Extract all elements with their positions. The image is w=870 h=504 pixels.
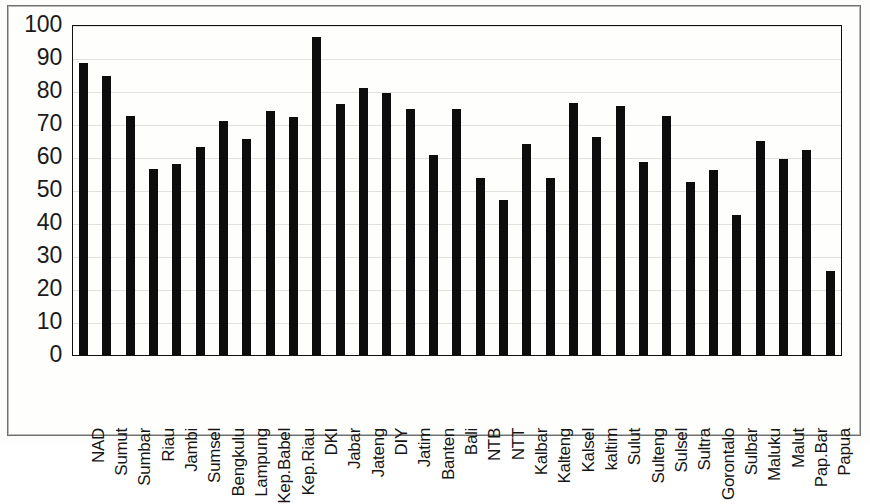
bar-Lampung (242, 139, 251, 355)
x-axis-label-text: DIY (393, 428, 410, 455)
y-axis-tick-30: 30 (14, 244, 62, 267)
bar-Kep.Riau (289, 117, 298, 355)
x-axis-label-text: Kep.Babel (276, 428, 293, 504)
bar-column (305, 25, 328, 355)
x-axis-label-text: kaltim (603, 428, 620, 471)
bar-DIY (382, 93, 391, 355)
x-axis-label-text: DKI (323, 428, 340, 455)
bar-column (632, 25, 655, 355)
bar-Sulbar (732, 215, 741, 355)
bar-Sumbar (126, 116, 135, 355)
bar-Papua (826, 271, 835, 355)
bar-column (539, 25, 562, 355)
x-axis-label-text: Sumbar (136, 428, 153, 486)
bar-Jateng (359, 88, 368, 355)
bar-column (422, 25, 445, 355)
bar-Bengkulu (219, 121, 228, 355)
bar-column (492, 25, 515, 355)
bar-column (819, 25, 842, 355)
x-axis-label-text: Bali (463, 428, 480, 455)
bar-column (795, 25, 818, 355)
bar-Jatim (406, 109, 415, 355)
y-axis: 1009080706050403020100 (14, 12, 66, 356)
bar-Jambi (172, 164, 181, 355)
y-axis-tick-20: 20 (14, 277, 62, 300)
bar-column (72, 25, 95, 355)
x-axis-labels: NADSumutSumbarRiauJambiSumselBengkuluLam… (72, 358, 842, 430)
bar-Bali (452, 109, 461, 355)
bar-column (515, 25, 538, 355)
x-axis-label-text: Sumsel (206, 428, 223, 483)
bar-Sumsel (196, 147, 205, 355)
bar-column (329, 25, 352, 355)
bar-column (469, 25, 492, 355)
bar-Sulut (616, 106, 625, 355)
bar-column (585, 25, 608, 355)
x-axis-label-text: Jatim (416, 428, 433, 467)
bar-Sumut (102, 76, 111, 355)
bar-column (165, 25, 188, 355)
bar-column (235, 25, 258, 355)
bar-Kalteng (546, 178, 555, 355)
x-axis-label-text: Riau (160, 428, 177, 462)
x-axis-label-text: Banten (440, 428, 457, 480)
bar-NTT (499, 200, 508, 355)
bar-column (749, 25, 772, 355)
x-axis-label-text: Sulteng (650, 428, 667, 484)
x-axis-label-text: Jambi (183, 428, 200, 472)
y-axis-tick-40: 40 (14, 211, 62, 234)
bar-column (189, 25, 212, 355)
x-axis-label-text: Sulut (626, 428, 643, 465)
x-axis-label-text: Sumut (113, 428, 130, 476)
bar-Banten (429, 155, 438, 355)
bar-column (725, 25, 748, 355)
bar-Sulteng (639, 162, 648, 355)
y-axis-tick-80: 80 (14, 79, 62, 102)
x-axis-label-text: Papua (836, 428, 853, 476)
bar-Pap.Bar (802, 150, 811, 355)
y-axis-tick-0: 0 (14, 343, 62, 366)
bar-Jabar (336, 104, 345, 355)
y-axis-tick-90: 90 (14, 46, 62, 69)
bar-Malut (779, 159, 788, 355)
x-axis-label-text: Bengkulu (230, 428, 247, 497)
bar-Sulsel (662, 116, 671, 355)
x-axis-label-text: NTB (486, 428, 503, 461)
y-axis-tick-100: 100 (14, 13, 62, 36)
bar-chart: 1009080706050403020100 NADSumutSumbarRia… (14, 12, 856, 431)
x-axis-label-text: Gorontalo (720, 428, 737, 500)
bar-column (562, 25, 585, 355)
bar-Sultra (686, 182, 695, 355)
bar-column (399, 25, 422, 355)
x-axis-label-text: Maluku (766, 428, 783, 481)
bar-Kalsel (569, 103, 578, 355)
x-axis-label-text: Lampung (253, 428, 270, 497)
bar-Kalbar (522, 144, 531, 355)
bar-column (445, 25, 468, 355)
x-axis-label-text: Jabar (346, 428, 363, 469)
bar-column (119, 25, 142, 355)
bar-DKI (312, 37, 321, 355)
bar-column (282, 25, 305, 355)
bar-column (375, 25, 398, 355)
bar-column (655, 25, 678, 355)
x-axis-label-text: Sulsel (673, 428, 690, 473)
x-axis-label-text: NAD (90, 428, 107, 463)
bar-Kep.Babel (266, 111, 275, 355)
y-axis-tick-60: 60 (14, 145, 62, 168)
x-axis-label-text: Sultra (696, 428, 713, 471)
x-axis-label-text: Kep.Riau (300, 428, 317, 496)
bar-column (352, 25, 375, 355)
x-axis-label-text: NTT (510, 428, 527, 460)
x-axis-label-text: Kalsel (580, 428, 597, 473)
y-axis-tick-50: 50 (14, 178, 62, 201)
bar-column (259, 25, 282, 355)
y-axis-tick-10: 10 (14, 310, 62, 333)
bar-NAD (79, 63, 88, 355)
bar-kaltim (592, 137, 601, 355)
bar-Gorontalo (709, 170, 718, 355)
x-axis-label-text: Malut (790, 428, 807, 468)
bar-NTB (476, 178, 485, 355)
bar-Maluku (756, 141, 765, 356)
